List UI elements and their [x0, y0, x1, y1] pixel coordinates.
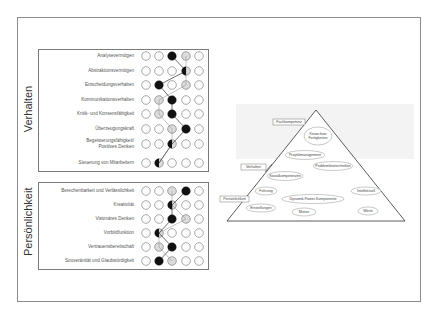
svg-text:Werte: Werte [363, 209, 373, 213]
pyramid-layer-label-fachkompetenz: Fachkompetenz [273, 119, 305, 125]
svg-text:Dynamik-Power-Komponente: Dynamik-Power-Komponente [290, 197, 337, 201]
svg-text:Persönlichkeit: Persönlichkeit [223, 197, 245, 201]
pyramid-layer-label-verhalten: Verhalten [241, 164, 266, 170]
pyramid-layer-label-persoenlichkeit: Persönlichkeit [220, 196, 249, 202]
svg-text:Führung: Führung [259, 189, 272, 193]
svg-text:Problemlösetechniken: Problemlösetechniken [315, 164, 350, 168]
ellipse-know-how: Know-how Fertigkeiten [304, 127, 332, 145]
ellipse-werte: Werte [358, 207, 378, 215]
svg-text:Projektmanagement: Projektmanagement [289, 153, 321, 157]
svg-text:Fertigkeiten: Fertigkeiten [309, 136, 328, 140]
svg-text:Verhalten: Verhalten [246, 165, 261, 169]
ellipse-dynamik-power-komponente: Dynamik-Power-Komponente [282, 195, 344, 204]
ellipse-intellektuell: Intellektuell [351, 187, 381, 195]
svg-text:Know-how: Know-how [310, 132, 327, 136]
svg-text:Intellektuell: Intellektuell [357, 189, 375, 193]
ellipse-projektmanagement: Projektmanagement [285, 151, 325, 160]
ellipse-sozialkompetenzen: Sozialkompetenzen [267, 172, 303, 181]
ellipse-problemloesetechniken: Problemlösetechniken [313, 162, 353, 171]
svg-text:Fachkompetenz: Fachkompetenz [276, 120, 302, 124]
svg-text:Einstellungen: Einstellungen [250, 206, 272, 210]
ellipse-fuehrung: Führung [255, 187, 277, 195]
svg-text:Motive: Motive [299, 210, 310, 214]
ellipse-motive: Motive [292, 208, 316, 216]
svg-text:Sozialkompetenzen: Sozialkompetenzen [269, 174, 300, 178]
competence-pyramid: Fachkompetenz Verhalten Persönlichkeit K… [0, 0, 437, 325]
ellipse-einstellungen: Einstellungen [246, 204, 276, 212]
